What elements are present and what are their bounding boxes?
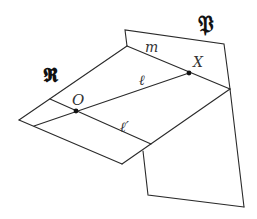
- plane-r-front-edge: [122, 89, 230, 164]
- point-x-label: X: [192, 54, 204, 70]
- plane-p: [125, 30, 244, 207]
- line-l-label: ℓ: [139, 72, 145, 88]
- point-o-label: O: [72, 91, 84, 109]
- line-m-label: m: [145, 39, 158, 55]
- line-l-prime-label: ℓ′: [120, 119, 130, 135]
- point-o: [74, 109, 79, 114]
- point-x: [187, 71, 192, 76]
- plane-r-left-edge: [19, 120, 122, 164]
- plane-p-label: 𝔓: [198, 11, 214, 37]
- line-l-prime: [50, 99, 151, 144]
- plane-r-label: 𝕽: [43, 63, 59, 87]
- plane-p-right-edge: [230, 89, 244, 207]
- plane-p-bottom-edge: [143, 151, 244, 207]
- planes-diagram: 𝔓 𝕽 m ℓ ℓ′ O X: [0, 0, 257, 219]
